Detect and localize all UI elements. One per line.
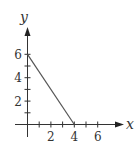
y-tick-label-6: 6	[14, 48, 22, 62]
y-tick-label-4: 4	[14, 71, 22, 85]
graph: 2 4 6 2 4 6 y x	[0, 0, 139, 146]
y-tick-label-2: 2	[14, 95, 22, 109]
y-axis-arrow-icon	[25, 27, 31, 36]
x-tick-label-6: 6	[94, 130, 102, 144]
line-segment	[28, 54, 75, 124]
x-axis-label: x	[126, 116, 134, 132]
x-tick-label-4: 4	[70, 130, 78, 144]
y-axis-label: y	[19, 9, 29, 25]
x-axis-arrow-icon	[115, 122, 124, 128]
x-tick-label-2: 2	[47, 130, 55, 144]
